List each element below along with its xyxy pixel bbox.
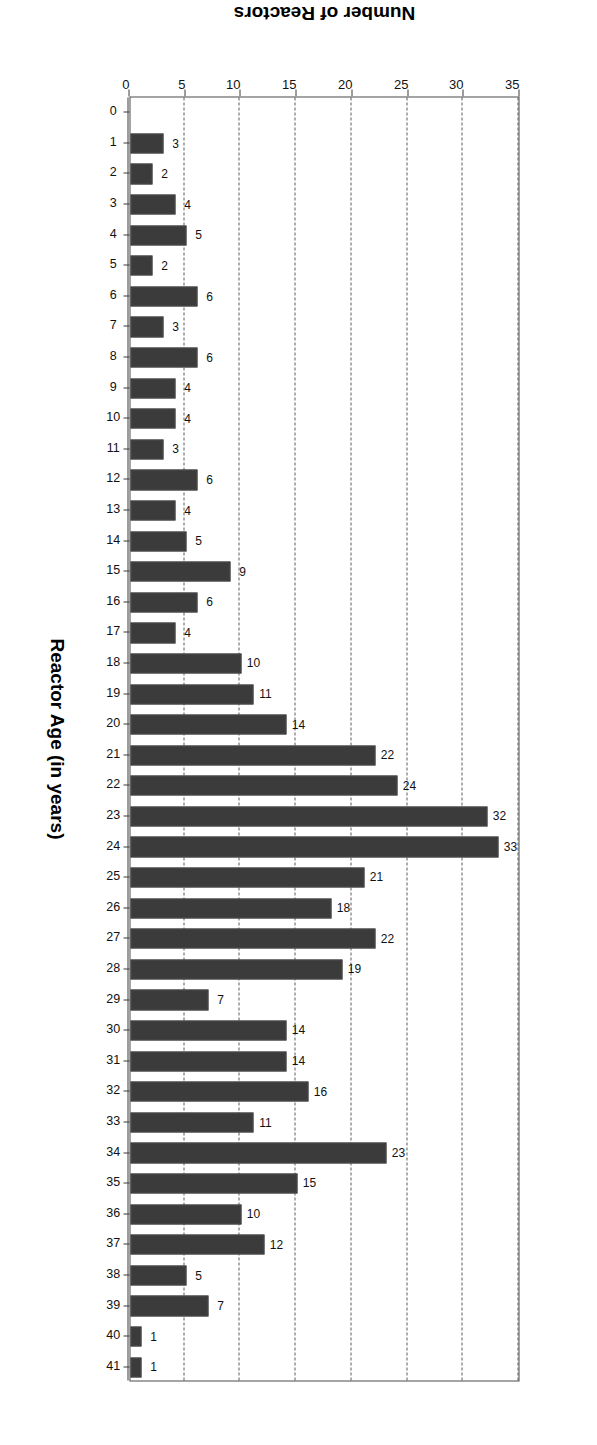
bar-group: 4: [130, 378, 520, 398]
bar[interactable]: [130, 1020, 286, 1040]
bar-group: 3: [130, 439, 520, 459]
bar-group: 5: [130, 531, 520, 551]
bar[interactable]: [130, 255, 152, 275]
x-tick-label-9: 9: [109, 380, 116, 393]
bar[interactable]: [130, 653, 241, 673]
bar[interactable]: [130, 1265, 186, 1285]
bar-value-label: 2: [161, 167, 168, 179]
bar[interactable]: [130, 1173, 297, 1193]
x-tick-38: [123, 1274, 129, 1275]
x-tick-label-40: 40: [106, 1329, 120, 1342]
bar-value-label: 3: [172, 443, 179, 455]
y-tick-label-10: 10: [226, 78, 240, 91]
bar-group: 10: [130, 653, 520, 673]
bar-group: 22: [130, 928, 520, 948]
bar[interactable]: [130, 408, 175, 428]
x-tick-label-26: 26: [106, 901, 120, 914]
bar[interactable]: [130, 622, 175, 642]
bar-group: 16: [130, 1081, 520, 1101]
x-tick-28: [123, 968, 129, 969]
bar-value-label: 22: [380, 932, 393, 944]
bar[interactable]: [130, 592, 197, 612]
bar-group: 6: [130, 347, 520, 367]
x-tick-41: [123, 1366, 129, 1367]
x-tick-37: [123, 1243, 129, 1244]
bar[interactable]: [130, 898, 331, 918]
bar[interactable]: [130, 745, 375, 765]
bar[interactable]: [130, 1112, 253, 1132]
x-tick-label-13: 13: [106, 503, 120, 516]
bar[interactable]: [130, 561, 230, 581]
x-tick-label-29: 29: [106, 992, 120, 1005]
bar[interactable]: [130, 1081, 308, 1101]
bar[interactable]: [130, 1295, 208, 1315]
bar-value-label: 6: [206, 351, 213, 363]
bar[interactable]: [130, 469, 197, 489]
bar[interactable]: [130, 1234, 264, 1254]
bar-value-label: 11: [258, 688, 270, 700]
bar[interactable]: [130, 500, 175, 520]
bar[interactable]: [130, 928, 375, 948]
x-tick-label-38: 38: [106, 1268, 120, 1281]
x-tick-label-6: 6: [109, 289, 116, 302]
bar-value-label: 9: [239, 565, 246, 577]
x-tick-label-14: 14: [106, 533, 120, 546]
bar-value-label: 4: [183, 626, 190, 638]
x-tick-10: [123, 417, 129, 418]
x-tick-label-16: 16: [106, 595, 120, 608]
bar-value-label: 5: [194, 1269, 201, 1281]
bar-group: 11: [130, 1112, 520, 1132]
bar[interactable]: [130, 316, 163, 336]
bar-value-label: 4: [183, 382, 190, 394]
bar[interactable]: [130, 347, 197, 367]
x-tick-8: [123, 356, 129, 357]
x-tick-18: [123, 662, 129, 663]
x-tick-label-1: 1: [109, 136, 116, 149]
bar[interactable]: [130, 378, 175, 398]
bar[interactable]: [130, 684, 253, 704]
bar-group: 6: [130, 286, 520, 306]
bar[interactable]: [130, 1326, 141, 1346]
bar[interactable]: [130, 714, 286, 734]
bar-value-label: 3: [172, 320, 179, 332]
bar[interactable]: [130, 439, 163, 459]
x-tick-label-5: 5: [109, 258, 116, 271]
x-tick-label-10: 10: [106, 411, 120, 424]
x-tick-23: [123, 815, 129, 816]
bar-value-label: 11: [258, 1116, 270, 1128]
x-tick-label-2: 2: [109, 166, 116, 179]
bar[interactable]: [130, 194, 175, 214]
bar-value-label: 14: [291, 1055, 304, 1067]
bar[interactable]: [130, 989, 208, 1009]
x-tick-3: [123, 203, 129, 204]
bar[interactable]: [130, 775, 397, 795]
bar[interactable]: [130, 806, 487, 826]
bar[interactable]: [130, 225, 186, 245]
x-tick-26: [123, 907, 129, 908]
bar[interactable]: [130, 1357, 141, 1377]
bar[interactable]: [130, 286, 197, 306]
bar[interactable]: [130, 163, 152, 183]
y-axis-title-text: Number of Reactors: [233, 2, 415, 24]
bar-group: 2: [130, 163, 520, 183]
bar[interactable]: [130, 959, 342, 979]
bar[interactable]: [130, 1204, 241, 1224]
x-tick-40: [123, 1335, 129, 1336]
x-tick-label-27: 27: [106, 931, 120, 944]
bar-group: 4: [130, 194, 520, 214]
bar[interactable]: [130, 133, 163, 153]
x-tick-4: [123, 234, 129, 235]
x-tick-label-33: 33: [106, 1115, 120, 1128]
bar[interactable]: [130, 867, 364, 887]
x-tick-30: [123, 1029, 129, 1030]
bar-value-label: 3: [172, 137, 179, 149]
x-tick-2: [123, 172, 129, 173]
x-tick-label-37: 37: [106, 1237, 120, 1250]
bar[interactable]: [130, 531, 186, 551]
bar[interactable]: [130, 1142, 386, 1162]
bar[interactable]: [130, 836, 498, 856]
bar-group: 2: [130, 255, 520, 275]
bar[interactable]: [130, 1051, 286, 1071]
y-tick-label-25: 25: [393, 78, 407, 91]
x-tick-label-0: 0: [109, 105, 116, 118]
